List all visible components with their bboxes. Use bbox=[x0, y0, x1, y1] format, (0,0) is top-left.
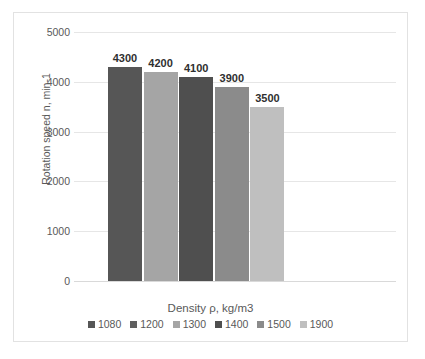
legend-label: 1200 bbox=[140, 319, 163, 330]
legend-swatch-icon bbox=[88, 321, 95, 328]
legend-swatch-icon bbox=[300, 321, 307, 328]
bar-value-label: 3500 bbox=[242, 92, 292, 104]
y-axis-title: Rotation speed n, min-1 bbox=[40, 39, 52, 219]
y-axis-tick-label: 5000 bbox=[24, 27, 70, 37]
bar-slot: 3500 bbox=[250, 32, 284, 281]
y-axis-tick-label: 0 bbox=[24, 276, 70, 286]
legend-swatch-icon bbox=[173, 321, 180, 328]
legend-label: 1080 bbox=[98, 319, 121, 330]
bar-slot: 4300 bbox=[108, 32, 142, 281]
chart-legend: 108012001300140015001900 bbox=[14, 319, 407, 330]
legend-item[interactable]: 1500 bbox=[257, 319, 290, 330]
legend-label: 1500 bbox=[267, 319, 290, 330]
legend-swatch-icon bbox=[130, 321, 137, 328]
legend-label: 1900 bbox=[310, 319, 333, 330]
bar-slot: 3900 bbox=[215, 32, 249, 281]
bar[interactable] bbox=[215, 87, 249, 281]
bar[interactable] bbox=[108, 67, 142, 281]
bar[interactable] bbox=[179, 77, 213, 281]
bar-value-label: 3900 bbox=[207, 72, 257, 84]
x-axis-title: Density ρ, kg/m3 bbox=[14, 302, 407, 314]
bar-series-group: 43004200410039003500 bbox=[108, 32, 396, 281]
legend-swatch-icon bbox=[257, 321, 264, 328]
legend-label: 1300 bbox=[183, 319, 206, 330]
legend-item[interactable]: 1900 bbox=[300, 319, 333, 330]
chart-container: 500040003000200010000 430042004100390035… bbox=[13, 12, 408, 342]
bar[interactable] bbox=[250, 107, 284, 281]
bar[interactable] bbox=[144, 72, 178, 281]
legend-swatch-icon bbox=[215, 321, 222, 328]
legend-item[interactable]: 1400 bbox=[215, 319, 248, 330]
legend-item[interactable]: 1300 bbox=[173, 319, 206, 330]
y-axis-tick-label: 1000 bbox=[24, 226, 70, 236]
bar-slot: 4100 bbox=[179, 32, 213, 281]
x-axis-baseline bbox=[74, 281, 396, 282]
legend-item[interactable]: 1200 bbox=[130, 319, 163, 330]
legend-label: 1400 bbox=[225, 319, 248, 330]
legend-item[interactable]: 1080 bbox=[88, 319, 121, 330]
